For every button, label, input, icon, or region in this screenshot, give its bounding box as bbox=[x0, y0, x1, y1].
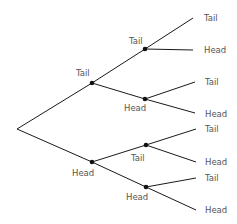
outcome-label-tail: Tail bbox=[204, 173, 219, 183]
outcome-label-tail: Tail bbox=[204, 77, 219, 87]
tree-edge bbox=[92, 162, 146, 187]
tree-edge bbox=[146, 187, 196, 210]
coin-toss-tree-diagram: TailHeadTailHeadTailHeadTailHeadTailHead… bbox=[0, 0, 237, 224]
outcome-label-head: Head bbox=[204, 45, 226, 55]
tree-node-dot bbox=[144, 143, 149, 148]
tree-edge bbox=[146, 178, 196, 187]
tree-edge bbox=[145, 99, 195, 113]
tree-nodes bbox=[90, 47, 149, 190]
branch-label-head: Head bbox=[72, 168, 94, 178]
tree-node-dot bbox=[90, 160, 95, 165]
branch-label-head: Head bbox=[124, 103, 146, 113]
tree-edge bbox=[17, 129, 92, 162]
branch-label-head: Head bbox=[126, 192, 148, 202]
branch-label-tail: Tail bbox=[75, 68, 90, 78]
tree-edge bbox=[17, 83, 92, 129]
tree-edge bbox=[145, 49, 193, 50]
tree-labels: TailHeadTailHeadTailHeadTailHeadTailHead… bbox=[72, 13, 227, 215]
tree-edge bbox=[145, 82, 195, 99]
outcome-label-tail: Tail bbox=[203, 13, 218, 23]
tree-edge bbox=[92, 49, 145, 83]
tree-edges bbox=[17, 18, 196, 210]
outcome-label-head: Head bbox=[205, 205, 227, 215]
tree-edge bbox=[146, 129, 196, 145]
branch-label-tail: Tail bbox=[128, 36, 143, 46]
tree-node-dot bbox=[143, 47, 148, 52]
tree-node-dot bbox=[143, 97, 148, 102]
branch-label-tail: Tail bbox=[130, 153, 145, 163]
tree-edge bbox=[146, 145, 196, 162]
tree-edge bbox=[92, 83, 145, 99]
tree-edge bbox=[145, 18, 193, 49]
outcome-label-tail: Tail bbox=[204, 124, 219, 134]
tree-node-dot bbox=[144, 185, 149, 190]
tree-node-dot bbox=[90, 81, 95, 86]
outcome-label-head: Head bbox=[205, 157, 227, 167]
outcome-label-head: Head bbox=[205, 109, 227, 119]
